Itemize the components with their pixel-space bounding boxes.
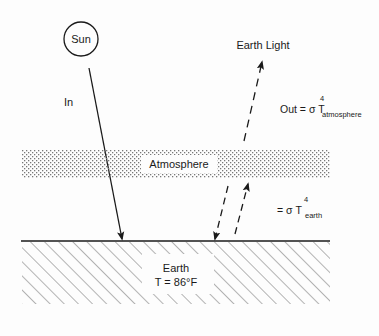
out-formula-exponent: 4: [320, 94, 324, 103]
sun: Sun: [64, 22, 98, 56]
atmosphere-label: Atmosphere: [149, 158, 208, 170]
earth-temperature: T = 86°F: [155, 276, 198, 288]
earth-light-arrow: [244, 62, 262, 141]
earth-formula-exponent: 4: [304, 195, 308, 204]
earth-formula-prefix: = σ T: [277, 204, 302, 216]
earth-formula: = σ T 4 earth: [277, 195, 322, 220]
earth-label-box: [142, 254, 214, 294]
earth-emission-arrow: [235, 184, 248, 234]
greenhouse-diagram: Sun In Atmosphere Earth Light Out = σ T …: [0, 0, 379, 336]
earth-formula-subscript: earth: [305, 211, 322, 220]
earth-ground: Earth T = 86°F: [21, 241, 330, 304]
sun-label: Sun: [71, 33, 91, 45]
earth-label: Earth: [163, 262, 189, 274]
out-formula-subscript: atmosphere: [322, 110, 362, 119]
atmosphere-layer: Atmosphere: [22, 150, 330, 178]
back-radiation-arrow: [215, 186, 228, 239]
earth-light-label: Earth Light: [236, 39, 289, 51]
out-formula: Out = σ T 4 atmosphere: [280, 94, 362, 119]
incoming-label: In: [64, 96, 73, 108]
out-formula-prefix: Out = σ T: [280, 103, 325, 115]
